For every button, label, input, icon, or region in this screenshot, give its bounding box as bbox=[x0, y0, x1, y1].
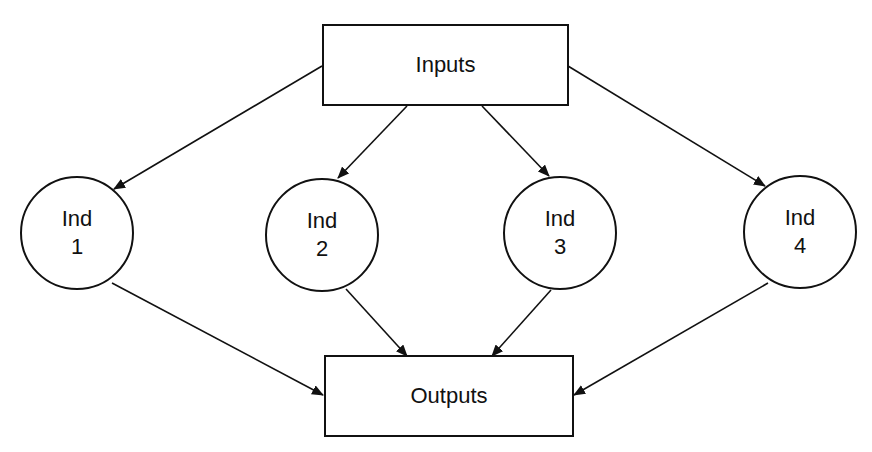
ind-2-node: Ind 2 bbox=[265, 178, 379, 292]
edge-inputs-ind3 bbox=[482, 106, 549, 176]
outputs-box: Outputs bbox=[324, 355, 574, 437]
edge-ind2-outputs bbox=[346, 289, 407, 356]
ind-1-node: Ind 1 bbox=[20, 176, 134, 290]
edge-ind3-outputs bbox=[492, 290, 551, 356]
outputs-label: Outputs bbox=[410, 383, 487, 409]
inputs-box: Inputs bbox=[322, 24, 569, 106]
ind-3-node: Ind 3 bbox=[503, 176, 617, 290]
ind-1-line1: Ind bbox=[62, 205, 93, 233]
ind-3-line2: 3 bbox=[554, 233, 566, 261]
ind-4-line1: Ind bbox=[785, 204, 816, 232]
ind-4-line2: 4 bbox=[794, 232, 806, 260]
edge-inputs-ind2 bbox=[338, 106, 407, 178]
ind-2-line2: 2 bbox=[316, 235, 328, 263]
ind-1-line2: 1 bbox=[71, 233, 83, 261]
edge-inputs-ind1 bbox=[114, 66, 322, 189]
edge-ind4-outputs bbox=[574, 283, 768, 395]
inputs-label: Inputs bbox=[416, 52, 476, 78]
edge-ind1-outputs bbox=[112, 283, 323, 395]
ind-2-line1: Ind bbox=[307, 207, 338, 235]
ind-4-node: Ind 4 bbox=[743, 175, 857, 289]
ind-3-line1: Ind bbox=[545, 205, 576, 233]
edge-inputs-ind4 bbox=[568, 66, 765, 186]
